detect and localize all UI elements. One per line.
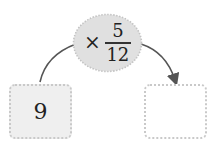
left-connector-line [40,44,76,82]
right-arrow [141,44,175,80]
fraction-numerator: 5 [112,21,123,41]
answer-box[interactable] [144,84,207,139]
operator-label: × 5 12 [73,14,142,72]
input-value: 9 [34,99,48,124]
multiply-sign: × [84,30,101,54]
fraction: 5 12 [105,21,131,64]
fraction-denominator: 12 [106,45,129,65]
input-box: 9 [9,84,72,139]
